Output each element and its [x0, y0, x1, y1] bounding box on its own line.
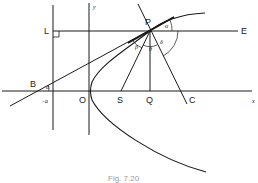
label-x-axis: x: [251, 98, 255, 104]
label-L: L: [44, 26, 49, 36]
parabola-reflection-diagram: P L E B O S Q C y x −a α δ θ β α Fig. 7.…: [0, 0, 258, 183]
label-Q: Q: [146, 95, 153, 105]
label-neg-a: −a: [41, 98, 48, 104]
right-angle-marker: [53, 31, 59, 37]
label-y-axis: y: [92, 4, 96, 10]
label-beta: β: [134, 44, 138, 50]
label-P: P: [145, 17, 151, 27]
label-O: O: [79, 95, 86, 105]
angle-arc-alpha-top: [170, 20, 172, 31]
label-S: S: [117, 95, 123, 105]
angle-arc-delta: [163, 31, 178, 56]
label-theta: θ: [149, 46, 152, 52]
figure-caption: Fig. 7.20: [108, 174, 140, 183]
label-B: B: [30, 79, 36, 89]
parabola-curve: [91, 13, 207, 172]
label-C: C: [189, 95, 196, 105]
label-alpha-top: α: [165, 23, 169, 29]
label-E: E: [241, 26, 247, 36]
label-delta: δ: [160, 39, 163, 45]
focal-line-PS: [121, 31, 150, 91]
